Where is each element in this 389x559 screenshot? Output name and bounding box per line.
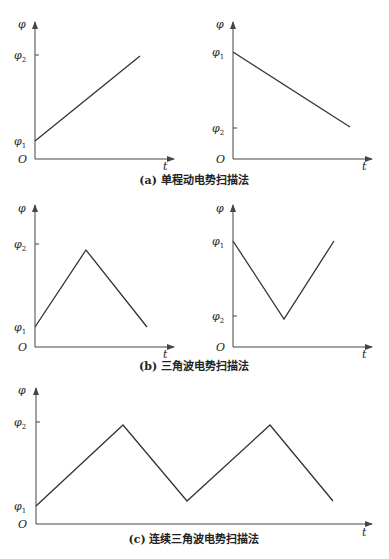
panel-c: φ φ2 φ1 O t bbox=[14, 384, 372, 539]
caption-c: (c) 连续三角波电势扫描法 bbox=[129, 532, 260, 546]
origin-label: O bbox=[18, 341, 27, 354]
x-axis-label: t bbox=[163, 160, 168, 173]
phi1-label: φ1 bbox=[14, 321, 26, 336]
scan-line bbox=[35, 56, 140, 141]
phi2-label: φ2 bbox=[212, 122, 224, 137]
phi1-label: φ1 bbox=[14, 500, 26, 515]
y-axis-label: φ bbox=[18, 18, 26, 31]
y-axis-label: φ bbox=[216, 18, 224, 31]
triangle-wave bbox=[35, 250, 147, 327]
panel-b-right: φ φ1 φ2 O t bbox=[212, 202, 372, 361]
potential-scan-diagram: φ φ2 φ1 O t φ φ1 φ2 O t (a) 单程动电势扫描法 φ φ… bbox=[0, 0, 389, 559]
origin-label: O bbox=[18, 518, 27, 531]
y-axis-label: φ bbox=[216, 202, 224, 215]
y-axis-label: φ bbox=[18, 384, 26, 397]
panel-a-right: φ φ1 φ2 O t bbox=[212, 18, 372, 173]
y-axis-label: φ bbox=[18, 202, 26, 215]
x-axis-label: t bbox=[362, 348, 367, 361]
panel-b-left: φ φ2 φ1 O t bbox=[14, 202, 174, 361]
triangle-wave bbox=[233, 241, 334, 319]
panel-a-left: φ φ2 φ1 O t bbox=[14, 18, 174, 173]
origin-label: O bbox=[216, 153, 225, 166]
x-axis-label: t bbox=[362, 526, 367, 539]
caption-a: (a) 单程动电势扫描法 bbox=[139, 173, 248, 187]
origin-label: O bbox=[216, 341, 225, 354]
phi1-label: φ1 bbox=[212, 235, 224, 250]
phi1-label: φ1 bbox=[212, 46, 224, 61]
scan-line bbox=[233, 52, 350, 127]
phi2-label: φ2 bbox=[14, 416, 26, 431]
continuous-triangle-wave bbox=[36, 425, 333, 506]
phi2-label: φ2 bbox=[14, 238, 26, 253]
phi2-label: φ2 bbox=[14, 49, 26, 64]
phi2-label: φ2 bbox=[212, 310, 224, 325]
origin-label: O bbox=[18, 153, 27, 166]
caption-b: (b) 三角波电势扫描法 bbox=[139, 359, 249, 373]
x-axis-label: t bbox=[362, 160, 367, 173]
phi1-label: φ1 bbox=[14, 135, 26, 150]
